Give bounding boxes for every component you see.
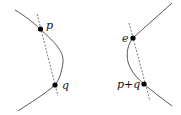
- right-panel: e p+q: [117, 3, 172, 106]
- point-q: [52, 82, 57, 87]
- left-panel: p q: [15, 10, 69, 111]
- label-e: e: [122, 32, 129, 45]
- label-q: q: [62, 79, 69, 92]
- point-p-plus-q: [141, 81, 146, 86]
- point-e: [130, 35, 135, 40]
- elliptic-curve-addition-diagram: p q e p+q: [0, 0, 181, 115]
- label-p-plus-q: p+q: [117, 78, 140, 91]
- point-p: [38, 26, 43, 31]
- label-p: p: [46, 19, 53, 32]
- left-curve: [15, 10, 63, 111]
